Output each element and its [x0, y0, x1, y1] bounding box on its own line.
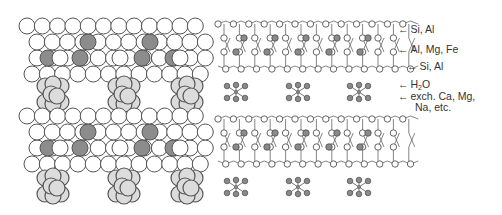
oxygen-atom: [353, 116, 359, 122]
oxygen-atom: [390, 144, 396, 150]
oxygen-atom: [392, 66, 398, 72]
oxygen-atom: [85, 156, 101, 172]
octahedral-cation: [357, 144, 363, 150]
oxygen-atom: [221, 49, 227, 55]
oxygen-atom: [182, 34, 198, 50]
octahedral-cation: [241, 35, 247, 41]
oxygen-atom: [384, 21, 390, 27]
octahedral-cation: [72, 140, 88, 156]
oxygen-atom: [269, 66, 275, 72]
water-molecule: [224, 178, 230, 184]
octahedral-cation: [241, 130, 247, 136]
oxygen-atom: [400, 116, 406, 122]
octahedral-cation: [264, 49, 270, 55]
oxygen-atom: [70, 66, 86, 82]
label-octahedral: ←Al, Mg, Fe: [398, 44, 458, 55]
water-molecule: [295, 96, 301, 102]
arrow-left-icon: ←: [407, 61, 418, 72]
oxygen-atom: [172, 140, 188, 156]
oxygen-atom: [282, 49, 288, 55]
cation-cluster-atom: [49, 180, 65, 196]
octahedral-cation: [334, 130, 340, 136]
oxygen-atom: [407, 161, 413, 167]
water-molecule: [233, 96, 239, 102]
water-molecule: [224, 83, 230, 89]
oxygen-atom: [377, 66, 383, 72]
oxygen-atom: [29, 34, 45, 50]
water-molecule: [286, 190, 292, 196]
oxygen-atom: [65, 18, 81, 34]
oxygen-atom: [96, 108, 112, 124]
oxygen-atom: [121, 124, 137, 140]
water-molecule: [365, 190, 371, 196]
arrow-left-icon: ←: [398, 24, 409, 35]
label-water: ←H2O: [398, 79, 430, 90]
octahedral-cation: [72, 50, 88, 66]
oxygen-atom: [276, 21, 282, 27]
oxygen-atom: [112, 50, 128, 66]
oxygen-atom: [238, 161, 244, 167]
oxygen-atom: [106, 124, 122, 140]
oxygen-atom: [252, 144, 258, 150]
cation-cluster-atom: [120, 88, 136, 104]
oxygen-atom: [361, 161, 367, 167]
oxygen-atom: [313, 35, 319, 41]
oxygen-atom: [126, 108, 142, 124]
oxygen-atom: [121, 34, 137, 50]
oxygen-atom: [157, 18, 173, 34]
oxygen-atom: [172, 108, 188, 124]
oxygen-atom: [261, 21, 267, 27]
oxygen-atom: [361, 66, 367, 72]
oxygen-atom: [221, 35, 227, 41]
oxygen-atom: [90, 140, 106, 156]
oxygen-atom: [19, 108, 35, 124]
octahedral-cation: [272, 35, 278, 41]
oxygen-atom: [223, 66, 229, 72]
oxygen-atom: [85, 66, 101, 82]
oxygen-atom: [215, 21, 221, 27]
water-molecule: [365, 95, 371, 101]
oxygen-atom: [111, 18, 127, 34]
arrow-left-icon: ←: [398, 44, 409, 55]
oxygen-atom: [172, 18, 188, 34]
oxygen-atom: [230, 21, 236, 27]
octahedral-cation: [142, 124, 158, 140]
oxygen-atom: [50, 18, 66, 34]
oxygen-atom: [353, 21, 359, 27]
oxygen-atom: [315, 66, 321, 72]
octahedral-cation: [326, 144, 332, 150]
oxygen-atom: [252, 49, 258, 55]
oxygen-atom: [344, 130, 350, 136]
oxygen-atom: [252, 35, 258, 41]
oxygen-atom: [44, 34, 60, 50]
water-molecule: [295, 177, 301, 183]
cation-cluster-atom: [120, 180, 136, 196]
water-molecule: [224, 190, 230, 196]
water-molecule: [347, 83, 353, 89]
oxygen-atom: [162, 156, 178, 172]
oxygen-atom: [292, 116, 298, 122]
oxygen-atom: [246, 116, 252, 122]
oxygen-atom: [338, 116, 344, 122]
oxygen-atom: [300, 161, 306, 167]
oxygen-atom: [70, 156, 86, 172]
oxygen-atom: [346, 66, 352, 72]
water-molecule: [365, 83, 371, 89]
oxygen-atom: [34, 18, 50, 34]
oxygen-atom: [80, 18, 96, 34]
oxygen-atom: [282, 144, 288, 150]
oxygen-atom: [157, 108, 173, 124]
oxygen-atom: [282, 35, 288, 41]
oxygen-atom: [182, 124, 198, 140]
water-molecule: [242, 178, 248, 184]
exchangeable-cation: [234, 185, 237, 188]
oxygen-atom: [338, 21, 344, 27]
octahedral-cation: [134, 140, 150, 156]
clay-structure-diagram: ←Si, Al ←Al, Mg, Fe ←Si, Al ←H2O ←exch. …: [0, 0, 502, 215]
water-molecule: [295, 82, 301, 88]
octahedral-cation: [142, 34, 158, 50]
octahedral-cation: [303, 35, 309, 41]
oxygen-atom: [390, 130, 396, 136]
oxygen-atom: [392, 161, 398, 167]
water-molecule: [304, 95, 310, 101]
